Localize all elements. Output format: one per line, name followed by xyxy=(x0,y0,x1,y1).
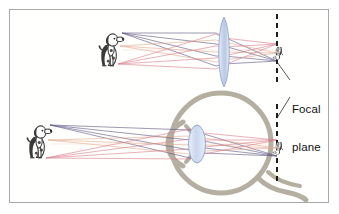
object-dog-top xyxy=(99,34,124,67)
object-dog-bottom xyxy=(27,126,52,159)
focal-plane-label: Focal plane xyxy=(292,78,321,178)
focal-plane-label-line2: plane xyxy=(292,141,321,154)
focal-plane-leaders xyxy=(277,62,290,118)
eye-lens xyxy=(189,125,206,163)
optics-figure: Focal plane xyxy=(0,0,339,214)
lens-diagram xyxy=(99,14,283,87)
diagram-canvas xyxy=(0,0,339,214)
converging-lens xyxy=(219,17,230,87)
eye-diagram xyxy=(27,93,306,200)
focal-plane-label-line1: Focal xyxy=(292,103,321,116)
